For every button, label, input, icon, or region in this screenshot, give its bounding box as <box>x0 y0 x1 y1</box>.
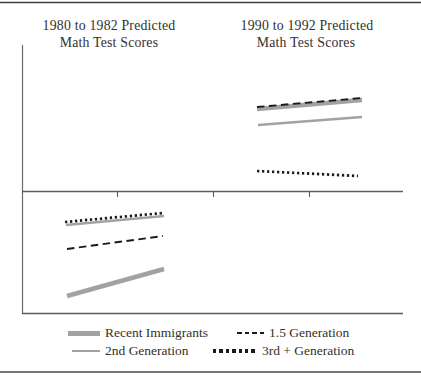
thick-gray-line-swatch <box>68 331 100 336</box>
legend-label-3rd-plus-generation: 3rd + Generation <box>262 343 354 359</box>
thin-gray-line-swatch <box>72 350 100 353</box>
two-panel-line-chart-figure: 1980 to 1982 Predicted Math Test Scores … <box>0 0 421 380</box>
left-panel-title-line1: 1980 to 1982 Predicted <box>43 18 176 33</box>
legend-label-2nd-generation: 2nd Generation <box>105 343 189 359</box>
legend-label-1-5-generation: 1.5 Generation <box>269 325 349 341</box>
series-line-recent-immigrants <box>67 269 164 296</box>
legend-item-recent-immigrants: Recent Immigrants <box>68 326 208 340</box>
series-line-recent-immigrants <box>257 100 362 109</box>
series-line-2nd-generation <box>258 117 362 125</box>
dashed-black-line-swatch <box>237 332 264 334</box>
series-line-1-5-generation <box>67 236 163 249</box>
dotted-black-line-swatch <box>213 349 257 352</box>
right-panel-title-line2: Math Test Scores <box>257 35 356 50</box>
chart-canvas: 1980 to 1982 Predicted Math Test Scores … <box>0 0 421 380</box>
legend-item-1-5-generation: 1.5 Generation <box>237 326 349 340</box>
right-panel-title-line1: 1990 to 1992 Predicted <box>241 18 374 33</box>
legend-item-3rd-plus-generation: 3rd + Generation <box>213 344 354 358</box>
legend-item-2nd-generation: 2nd Generation <box>72 344 189 358</box>
series-line-3rd-generation <box>257 171 358 176</box>
left-panel-title-line2: Math Test Scores <box>60 35 159 50</box>
legend-label-recent-immigrants: Recent Immigrants <box>105 325 208 341</box>
